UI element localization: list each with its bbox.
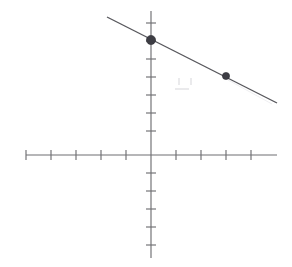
scan-artifacts (175, 78, 272, 104)
data-point-y-intercept (146, 35, 155, 44)
coordinate-plane (0, 0, 292, 267)
plotted-line (107, 17, 277, 103)
data-point-second (222, 72, 229, 79)
smudge-mark (190, 78, 192, 85)
faint-streak (228, 80, 272, 104)
smudge-mark (175, 88, 189, 90)
graph-figure (0, 0, 292, 267)
smudge-mark (178, 78, 180, 85)
plotted-line-group (107, 17, 277, 103)
y-axis-group (146, 11, 156, 258)
